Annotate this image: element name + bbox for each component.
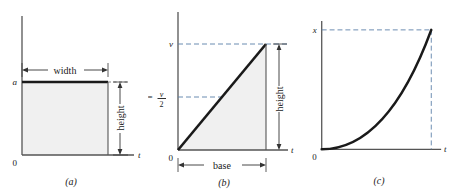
mean-velocity-expression: v = v 2	[148, 90, 166, 109]
caption-c: (c)	[373, 175, 384, 187]
rect-shaded-area	[22, 82, 108, 155]
panel-a: width height a t 0 (a)	[0, 0, 152, 194]
mean-velocity-equals: =	[148, 92, 153, 102]
origin-label-a: 0	[13, 158, 18, 168]
caption-b: (b)	[218, 177, 230, 189]
x-axis-label-a: t	[138, 150, 141, 160]
width-dimension: width	[22, 63, 108, 77]
caption-a: (a)	[65, 176, 77, 188]
origin-label-c: 0	[312, 152, 317, 162]
y-axis-label-c: x	[312, 25, 317, 35]
width-label: width	[54, 65, 77, 76]
y-top-label-b: v	[169, 39, 173, 49]
height-dimension-b: height	[273, 44, 287, 150]
origin-label-b: 0	[169, 153, 174, 163]
height-dimension: height	[113, 82, 128, 155]
height-label-b: height	[274, 86, 285, 111]
panel-c: x t 0 (c)	[300, 0, 452, 194]
mean-velocity-numerator: v	[160, 90, 164, 99]
curve-parabola-x	[322, 30, 432, 149]
base-dimension: base	[178, 158, 266, 172]
base-label: base	[213, 160, 231, 171]
panel-b: height base v v = v 2	[148, 0, 300, 194]
y-axis-label-a: a	[13, 77, 18, 87]
height-label: height	[115, 105, 126, 130]
three-panel-kinematics-figure: width height a t 0 (a)	[0, 0, 454, 194]
x-axis-label-c: t	[444, 144, 447, 154]
mean-velocity-denominator: 2	[160, 100, 164, 109]
x-axis-label-b: t	[291, 145, 294, 155]
